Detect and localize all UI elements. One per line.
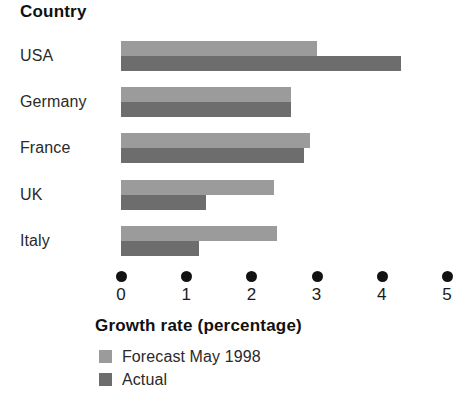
legend-swatch-actual — [99, 373, 112, 386]
tick-dot-icon — [181, 271, 192, 282]
tick-label: 5 — [433, 285, 461, 305]
bar-usa-forecast-may-1998 — [121, 41, 317, 56]
bar-italy-actual — [121, 241, 199, 256]
chart-legend: Forecast May 1998Actual — [99, 345, 261, 391]
category-label-france: France — [20, 139, 70, 157]
bar-italy-forecast-may-1998 — [121, 226, 277, 241]
tick-label: 0 — [107, 285, 135, 305]
bars-container — [121, 41, 461, 71]
plot-area: USAGermanyFranceUKItaly — [0, 33, 468, 265]
tick-label: 4 — [368, 285, 396, 305]
category-label-italy: Italy — [20, 232, 50, 250]
bar-group: France — [0, 126, 468, 171]
tick-dot-icon — [116, 271, 127, 282]
tick-dot-icon — [246, 271, 257, 282]
legend-item: Actual — [99, 368, 261, 391]
bar-group: UK — [0, 172, 468, 217]
bar-france-actual — [121, 148, 304, 163]
bar-usa-actual — [121, 56, 401, 71]
legend-swatch-forecast — [99, 350, 112, 363]
value-axis: 012345 — [0, 265, 468, 313]
bars-container — [121, 133, 461, 163]
category-label-germany: Germany — [20, 93, 87, 111]
bar-germany-actual — [121, 102, 291, 117]
bar-group: Italy — [0, 219, 468, 264]
category-label-uk: UK — [20, 186, 42, 204]
bars-container — [121, 226, 461, 256]
tick-dot-icon — [312, 271, 323, 282]
value-axis-title: Growth rate (percentage) — [95, 316, 302, 336]
tick-label: 3 — [303, 285, 331, 305]
bar-france-forecast-may-1998 — [121, 133, 310, 148]
tick-dot-icon — [377, 271, 388, 282]
tick-label: 1 — [172, 285, 200, 305]
bar-group: Germany — [0, 79, 468, 124]
category-label-usa: USA — [20, 47, 53, 65]
tick-label: 2 — [237, 285, 265, 305]
bar-germany-forecast-may-1998 — [121, 87, 291, 102]
legend-label: Forecast May 1998 — [122, 348, 261, 366]
growth-rate-bar-chart: Country USAGermanyFranceUKItaly 012345 G… — [0, 0, 468, 410]
category-axis-title: Country — [20, 2, 87, 22]
bar-uk-actual — [121, 195, 206, 210]
legend-item: Forecast May 1998 — [99, 345, 261, 368]
tick-dot-icon — [442, 271, 453, 282]
legend-label: Actual — [122, 371, 167, 389]
bar-uk-forecast-may-1998 — [121, 180, 274, 195]
bar-group: USA — [0, 33, 468, 78]
bars-container — [121, 180, 461, 210]
bars-container — [121, 87, 461, 117]
